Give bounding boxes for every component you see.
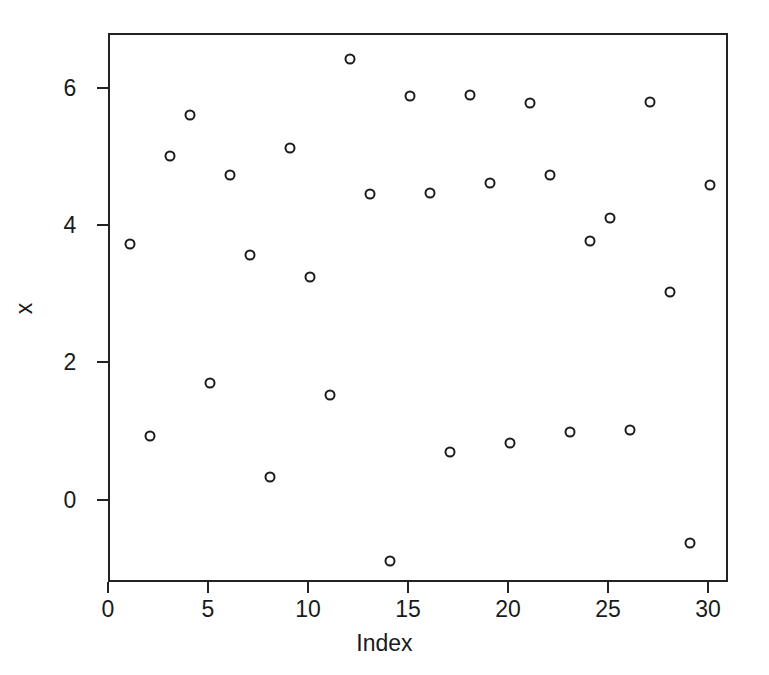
plot-area <box>108 33 728 582</box>
y-tick-label: 2 <box>50 349 90 375</box>
x-tick-mark <box>707 582 709 593</box>
data-point <box>665 286 676 297</box>
data-point <box>405 91 416 102</box>
data-point <box>465 89 476 100</box>
data-point-layer <box>110 35 726 580</box>
data-point <box>525 97 536 108</box>
data-point <box>285 143 296 154</box>
y-axis-label: x <box>11 259 38 359</box>
x-tick-mark <box>207 582 209 593</box>
y-tick-label: 4 <box>50 212 90 238</box>
x-tick-mark <box>307 582 309 593</box>
x-tick-label: 15 <box>378 596 438 622</box>
data-point <box>345 54 356 65</box>
data-point <box>585 235 596 246</box>
data-point <box>245 250 256 261</box>
x-tick-mark <box>507 582 509 593</box>
data-point <box>425 187 436 198</box>
x-tick-label: 10 <box>278 596 338 622</box>
data-point <box>625 424 636 435</box>
data-point <box>125 238 136 249</box>
y-tick-mark <box>97 224 108 226</box>
x-tick-mark <box>107 582 109 593</box>
data-point <box>225 169 236 180</box>
scatter-plot-figure: 051015202530 0246 Index x <box>0 0 769 675</box>
data-point <box>145 430 156 441</box>
y-tick-mark <box>97 499 108 501</box>
x-tick-label: 30 <box>678 596 738 622</box>
data-point <box>205 377 216 388</box>
data-point <box>705 180 716 191</box>
data-point <box>365 189 376 200</box>
x-axis-label: Index <box>0 630 769 657</box>
x-tick-label: 20 <box>478 596 538 622</box>
data-point <box>545 169 556 180</box>
y-tick-mark <box>97 87 108 89</box>
data-point <box>265 471 276 482</box>
data-point <box>685 537 696 548</box>
x-tick-label: 0 <box>78 596 138 622</box>
data-point <box>325 390 336 401</box>
y-tick-label: 0 <box>50 487 90 513</box>
x-tick-mark <box>607 582 609 593</box>
data-point <box>305 272 316 283</box>
y-tick-mark <box>97 361 108 363</box>
y-tick-label: 6 <box>50 75 90 101</box>
data-point <box>185 109 196 120</box>
data-point <box>565 426 576 437</box>
x-tick-label: 5 <box>178 596 238 622</box>
data-point <box>505 437 516 448</box>
data-point <box>605 213 616 224</box>
data-point <box>485 178 496 189</box>
data-point <box>445 446 456 457</box>
data-point <box>385 556 396 567</box>
data-point <box>645 96 656 107</box>
x-tick-label: 25 <box>578 596 638 622</box>
x-tick-mark <box>407 582 409 593</box>
data-point <box>165 151 176 162</box>
